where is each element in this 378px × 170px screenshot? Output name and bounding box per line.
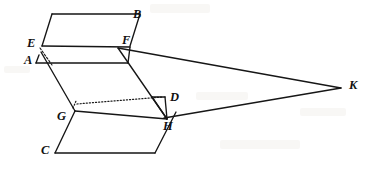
edge-front-left (36, 55, 39, 63)
edge-e-to-f (42, 46, 130, 47)
edge-top-left-slant (42, 14, 52, 46)
vertex-label-c: C (41, 144, 49, 157)
vertex-label-h: H (163, 120, 173, 133)
edge-g-up-dotted (73, 101, 76, 108)
geometry-figure: BFEADGHCK (0, 0, 378, 170)
vertex-label-a: A (24, 54, 32, 67)
vertex-label-d: D (170, 91, 179, 104)
vertex-label-b: B (133, 8, 141, 21)
vertex-label-k: K (349, 79, 357, 92)
figure-canvas (0, 0, 378, 170)
edge-g-to-d-dotted (77, 97, 163, 104)
edges-layer (36, 14, 341, 153)
vertex-label-e: E (27, 37, 35, 50)
vertex-label-f: F (122, 34, 130, 47)
vertex-label-g: G (57, 110, 66, 123)
ray-h-to-k (164, 88, 341, 118)
edge-g-to-h (75, 111, 167, 119)
edge-a-to-g (41, 52, 75, 111)
ray-f-to-k (118, 48, 341, 88)
